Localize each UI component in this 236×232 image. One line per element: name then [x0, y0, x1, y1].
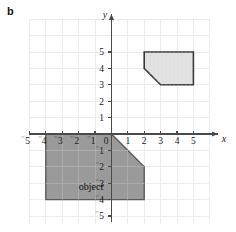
- svg-text:4: 4: [175, 136, 180, 146]
- svg-text:1: 1: [99, 113, 104, 123]
- svg-text:3: 3: [99, 80, 104, 90]
- x-axis-arrow: [212, 131, 218, 136]
- y-axis-label: y: [102, 9, 108, 20]
- x-tick-labels-positive: 1 2 3 4 5: [125, 136, 196, 146]
- svg-text:⁻5: ⁻5: [95, 209, 104, 221]
- y-tick-labels-positive: 1 2 3 4 5: [99, 47, 104, 123]
- svg-text:⁻4: ⁻4: [95, 193, 104, 205]
- svg-text:2: 2: [142, 136, 147, 146]
- svg-text:2: 2: [99, 97, 104, 107]
- svg-text:4: 4: [99, 64, 104, 74]
- svg-text:5: 5: [99, 47, 104, 57]
- coordinate-plane: ⁻5 ⁻4 ⁻3 ⁻2 ⁻1 0 1 2 3 4 5: [0, 0, 236, 232]
- object-label: object: [79, 181, 104, 192]
- figure-panel: b: [0, 0, 236, 232]
- y-axis-arrow: [109, 14, 114, 20]
- svg-text:5: 5: [191, 136, 196, 146]
- svg-text:⁻4: ⁻4: [38, 134, 47, 146]
- svg-text:⁻5: ⁻5: [21, 134, 30, 146]
- svg-text:1: 1: [125, 136, 130, 146]
- origin-label: 0: [104, 136, 109, 146]
- x-axis-label: x: [221, 133, 227, 144]
- svg-text:3: 3: [158, 136, 163, 146]
